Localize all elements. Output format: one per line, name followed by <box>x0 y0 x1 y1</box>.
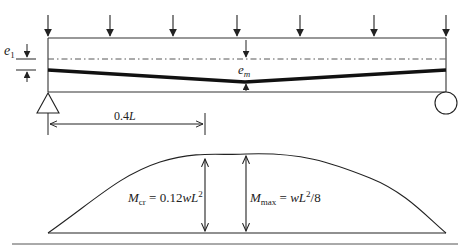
diagram-svg <box>0 0 470 248</box>
cracking-moment-label: Mcr = 0.12wL2 <box>128 190 203 207</box>
moment-curve <box>48 154 446 233</box>
em-label: em <box>238 63 250 79</box>
prestressed-beam-diagram: e1 em 0.4L Mcr = 0.12wL2 Mmax = wL2/8 <box>0 0 470 248</box>
e1-label: e1 <box>4 44 15 60</box>
moment-diagram <box>48 154 446 233</box>
distributed-load-arrows <box>48 15 446 36</box>
roller-support-icon <box>435 92 457 114</box>
pin-support-icon <box>37 93 59 113</box>
max-moment-label: Mmax = wL2/8 <box>250 190 321 207</box>
distance-label: 0.4L <box>114 110 136 122</box>
e1-dimension <box>16 44 36 82</box>
